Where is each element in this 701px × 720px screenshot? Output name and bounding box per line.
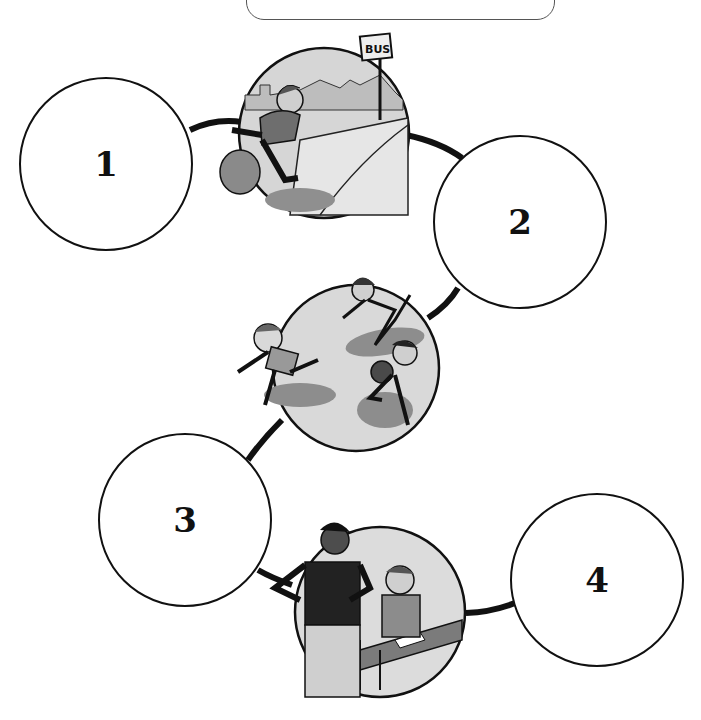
picture-boy-running-to-bus: BUS [220, 33, 409, 218]
answer-circle-4[interactable]: 4 [510, 493, 684, 667]
picture-children-running [238, 278, 439, 452]
connector-2-to-pic2 [428, 288, 458, 318]
picture-teacher-and-student [275, 522, 465, 697]
answer-circle-number: 4 [585, 560, 609, 600]
answer-circle-number: 3 [173, 500, 197, 540]
bus-sign-text: BUS [365, 43, 390, 56]
answer-circle-3[interactable]: 3 [98, 433, 272, 607]
answer-circle-number: 2 [508, 202, 532, 242]
answer-circle-2[interactable]: 2 [433, 135, 607, 309]
connector-pic2-to-3 [248, 420, 282, 460]
answer-circle-1[interactable]: 1 [19, 77, 193, 251]
answer-circle-number: 1 [94, 144, 118, 184]
connector-pic1-to-2 [406, 135, 462, 158]
connector-pic3-to-4 [466, 603, 515, 613]
